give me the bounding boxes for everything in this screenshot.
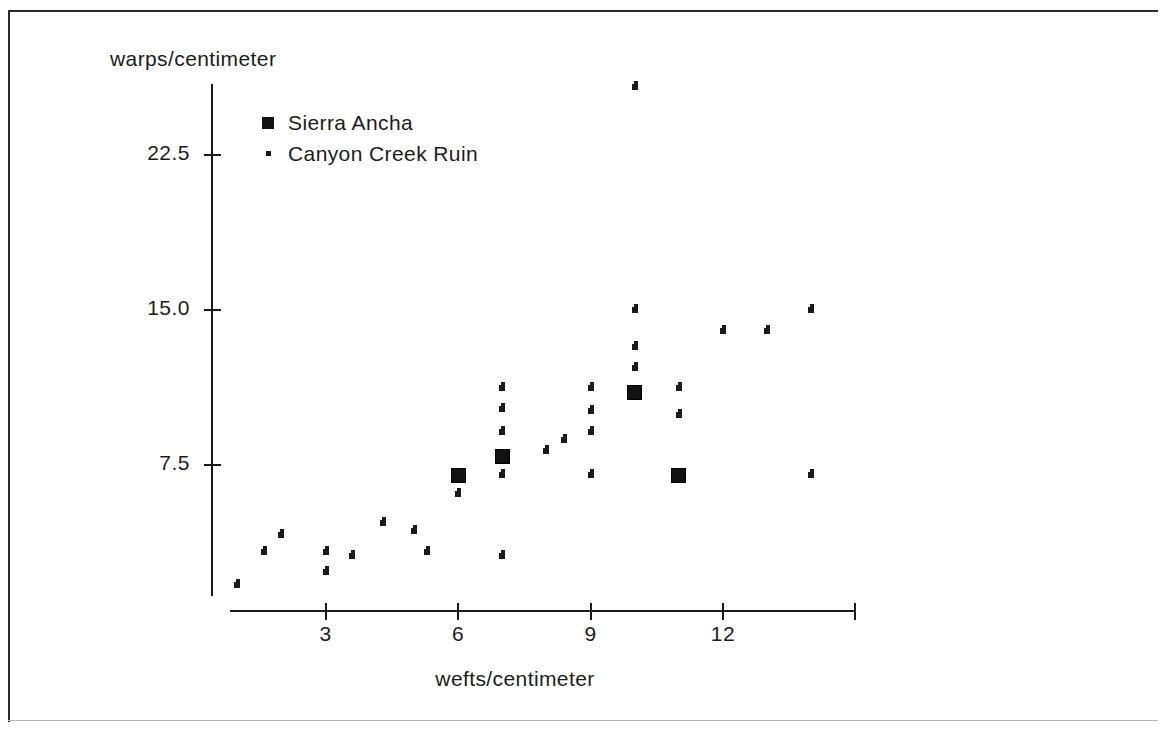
legend-entry: Canyon Creek Ruin — [258, 138, 478, 169]
data-point-canyon-creek-ruin — [764, 328, 770, 334]
data-point-canyon-creek-ruin — [499, 406, 505, 412]
data-point-canyon-creek-ruin — [323, 569, 329, 575]
data-point-canyon-creek-ruin — [588, 429, 594, 435]
data-point-canyon-creek-ruin — [261, 549, 267, 555]
data-point-canyon-creek-ruin — [380, 520, 386, 526]
legend-entry-label: Sierra Ancha — [288, 111, 413, 135]
data-point-canyon-creek-ruin — [632, 307, 638, 313]
data-point-canyon-creek-ruin — [234, 582, 240, 588]
data-point-canyon-creek-ruin — [499, 385, 505, 391]
data-point-canyon-creek-ruin — [632, 84, 638, 90]
data-point-canyon-creek-ruin — [499, 553, 505, 559]
data-point-canyon-creek-ruin — [411, 528, 417, 534]
data-point-sierra-ancha — [671, 468, 686, 483]
x-axis-end-tick-mark — [854, 603, 856, 620]
data-point-canyon-creek-ruin — [676, 385, 682, 391]
data-point-canyon-creek-ruin — [323, 549, 329, 555]
y-axis-tick-mark — [204, 154, 221, 156]
x-axis-tick-mark — [457, 603, 459, 620]
chart-legend: Sierra AnchaCanyon Creek Ruin — [258, 107, 478, 169]
data-point-canyon-creek-ruin — [499, 472, 505, 478]
x-axis-tick-label: 6 — [428, 622, 488, 646]
y-axis-tick-mark — [204, 464, 221, 466]
y-axis-tick-label: 7.5 — [100, 451, 190, 475]
data-point-sierra-ancha — [451, 468, 466, 483]
y-axis-line — [211, 84, 213, 596]
data-point-canyon-creek-ruin — [588, 385, 594, 391]
data-point-sierra-ancha — [627, 385, 642, 400]
x-axis-tick-label: 12 — [693, 622, 753, 646]
x-axis-tick-mark — [590, 603, 592, 620]
data-point-canyon-creek-ruin — [588, 472, 594, 478]
data-point-canyon-creek-ruin — [499, 429, 505, 435]
data-point-canyon-creek-ruin — [632, 344, 638, 350]
y-axis-tick-label: 22.5 — [100, 141, 190, 165]
x-axis-tick-mark — [325, 603, 327, 620]
data-point-canyon-creek-ruin — [278, 532, 284, 538]
data-point-canyon-creek-ruin — [543, 448, 549, 454]
data-point-canyon-creek-ruin — [632, 365, 638, 371]
data-point-canyon-creek-ruin — [808, 472, 814, 478]
legend-dot-marker-icon — [258, 151, 288, 156]
scatter-plot: warps/centimeter 22.515.07.5 36912 wefts… — [0, 0, 1165, 731]
y-axis-tick-label: 15.0 — [100, 296, 190, 320]
legend-square-marker-icon — [258, 117, 288, 129]
data-point-canyon-creek-ruin — [808, 307, 814, 313]
x-axis-title: wefts/centimeter — [0, 667, 1030, 691]
legend-entry-label: Canyon Creek Ruin — [288, 142, 478, 166]
data-point-canyon-creek-ruin — [588, 408, 594, 414]
x-axis-tick-label: 3 — [296, 622, 356, 646]
x-axis-tick-mark — [722, 603, 724, 620]
y-axis-title: warps/centimeter — [110, 47, 276, 71]
data-point-canyon-creek-ruin — [720, 328, 726, 334]
data-point-canyon-creek-ruin — [561, 437, 567, 443]
y-axis-tick-mark — [204, 309, 221, 311]
x-axis-tick-label: 9 — [561, 622, 621, 646]
data-point-canyon-creek-ruin — [676, 412, 682, 418]
data-point-canyon-creek-ruin — [424, 549, 430, 555]
data-point-canyon-creek-ruin — [349, 553, 355, 559]
data-point-canyon-creek-ruin — [455, 491, 461, 497]
figure-page: warps/centimeter 22.515.07.5 36912 wefts… — [0, 0, 1165, 731]
data-point-sierra-ancha — [495, 449, 510, 464]
legend-entry: Sierra Ancha — [258, 107, 478, 138]
